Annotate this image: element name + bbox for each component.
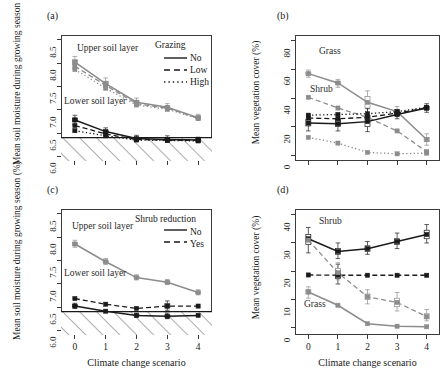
x-tick-label: 2: [127, 342, 147, 352]
x-tick-mark: [105, 161, 106, 165]
x-tick-mark: [74, 161, 75, 165]
y-tick-label: 8.5: [47, 40, 59, 64]
panel-c-annot-upper: Upper soil layer: [72, 221, 133, 231]
panel-b-annot-grass: Grass: [319, 46, 341, 56]
panel-b-canvas: [295, 35, 440, 161]
panel-c-ylabel: Mean soil moisture during growing season…: [12, 190, 22, 340]
x-tick-mark: [136, 335, 137, 339]
panel-a: (a) Mean soil moisture during growing se…: [0, 0, 230, 184]
x-tick-label: 0: [65, 342, 85, 352]
x-tick-mark: [367, 335, 368, 339]
panel-c-legend-keys: [163, 214, 189, 252]
panel-c-annot-lower: Lower soil layer: [64, 268, 126, 278]
x-tick-mark: [337, 161, 338, 165]
y-tick-label: 8.5: [47, 214, 59, 238]
panel-d-label: (d): [277, 184, 289, 195]
x-tick-mark: [198, 335, 199, 339]
x-tick-mark: [426, 161, 427, 165]
panel-a-label: (a): [47, 10, 58, 21]
panel-d-xlabel: Climate change scenario: [295, 357, 440, 368]
x-tick-mark: [308, 335, 309, 339]
x-tick-mark: [136, 161, 137, 165]
panel-a-legend-keys: [163, 40, 189, 90]
y-tick-label: 7.5: [47, 260, 59, 284]
x-tick-mark: [167, 161, 168, 165]
y-tick-label: 8.0: [47, 237, 59, 261]
y-tick-label: 20: [281, 127, 293, 151]
panel-b-label: (b): [277, 10, 289, 21]
x-tick-mark: [105, 335, 106, 339]
x-tick-mark: [198, 161, 199, 165]
panel-c: (c) Mean soil moisture during growing se…: [0, 177, 230, 367]
y-tick-label: 6.5: [47, 133, 59, 157]
x-tick-label: 4: [188, 342, 208, 352]
x-tick-mark: [367, 161, 368, 165]
y-tick-label: 10: [281, 300, 293, 324]
panel-d-ylabel: Mean vegetation cover (%): [251, 200, 261, 335]
panel-a-annot-lower: Lower soil layer: [64, 96, 126, 106]
x-tick-mark: [308, 161, 309, 165]
panel-b-ylabel: Mean vegetation cover (%): [251, 25, 261, 160]
panel-a-annot-upper: Upper soil layer: [77, 43, 138, 53]
y-tick-label: 40: [281, 98, 293, 122]
panel-a-ylabel: Mean soil moisture during growing season…: [12, 15, 22, 165]
panel-a-legend-no: No: [190, 53, 202, 63]
x-tick-label: 4: [417, 342, 437, 352]
panel-a-legend-low: Low: [190, 65, 207, 75]
panel-c-xlabel: Climate change scenario: [61, 357, 212, 368]
x-tick-mark: [397, 335, 398, 339]
x-tick-label: 1: [96, 342, 116, 352]
panel-a-legend-high: High: [190, 77, 209, 87]
x-tick-label: 3: [157, 342, 177, 352]
y-tick-label: 7.0: [47, 284, 59, 308]
panel-c-label: (c): [47, 184, 58, 195]
panel-c-legend-yes: Yes: [190, 239, 204, 249]
x-tick-mark: [74, 335, 75, 339]
x-tick-mark: [397, 161, 398, 165]
panel-c-legend-no: No: [190, 227, 202, 237]
x-tick-label: 0: [298, 342, 318, 352]
x-tick-label: 3: [387, 342, 407, 352]
y-tick-label: 7.0: [47, 110, 59, 134]
y-tick-label: 0: [281, 155, 293, 179]
panel-d-annot-shrub: Shrub: [319, 216, 342, 226]
y-tick-label: 60: [281, 69, 293, 93]
panel-d-canvas: [295, 209, 440, 335]
y-tick-label: 6.5: [47, 307, 59, 331]
y-tick-label: 20: [281, 271, 293, 295]
panel-b: (b) Mean vegetation cover (%) 020406080 …: [224, 0, 447, 184]
y-tick-label: 6.0: [47, 330, 59, 354]
y-tick-label: 0: [281, 328, 293, 352]
y-tick-label: 7.5: [47, 86, 59, 110]
x-tick-label: 2: [358, 342, 378, 352]
panel-d: (d) Mean vegetation cover (%) 0102030400…: [224, 177, 447, 367]
x-tick-mark: [337, 335, 338, 339]
y-tick-label: 30: [281, 243, 293, 267]
y-tick-label: 8.0: [47, 63, 59, 87]
x-tick-mark: [426, 335, 427, 339]
y-tick-label: 40: [281, 215, 293, 239]
panel-d-annot-grass: Grass: [304, 299, 326, 309]
y-tick-label: 80: [281, 41, 293, 65]
panel-b-annot-shrub: Shrub: [310, 84, 333, 94]
x-tick-label: 1: [328, 342, 348, 352]
x-tick-mark: [167, 335, 168, 339]
